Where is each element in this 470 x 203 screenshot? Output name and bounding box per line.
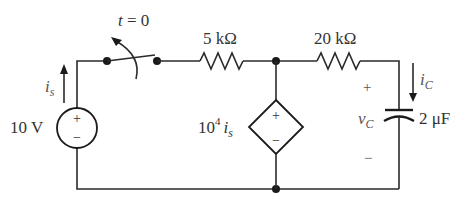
resistor-20k-label: 20 kΩ — [314, 29, 356, 48]
capacitor-minus-sign: − — [364, 150, 372, 166]
dependent-voltage-source: + − 104is — [198, 61, 303, 189]
arrow-up-icon — [60, 64, 68, 74]
voltage-source-label: 10 V — [10, 118, 44, 137]
voltage-source-10v: + − 10 V — [10, 108, 97, 148]
dependent-source-label: 104is — [198, 115, 233, 140]
voltage-source-minus: − — [73, 130, 81, 145]
dependent-source-minus: − — [272, 133, 280, 148]
capacitor-voltage-label: vC — [358, 109, 375, 131]
capacitor-plus-sign: + — [363, 79, 371, 95]
resistor-5k: 5 kΩ — [200, 29, 243, 69]
resistor-5k-label: 5 kΩ — [203, 29, 237, 48]
current-is-arrow: is — [45, 64, 68, 103]
switch: t = 0 — [103, 11, 161, 79]
arrow-down-icon — [409, 93, 417, 102]
capacitor-label: 2 μF — [419, 109, 450, 128]
capacitor: 2 μF vC + − — [358, 79, 450, 166]
resistor-20k: 20 kΩ — [314, 29, 360, 69]
switch-blade — [107, 55, 155, 61]
current-ic-label: iC — [420, 70, 434, 92]
voltage-source-plus: + — [73, 111, 81, 126]
circuit-diagram: t = 0 5 kΩ 20 kΩ 2 μF vC + − iC — [0, 0, 470, 203]
dependent-source-plus: + — [272, 108, 280, 123]
current-ic-arrow: iC — [409, 63, 434, 102]
switch-label: t = 0 — [118, 11, 149, 30]
wire-bottom — [77, 148, 399, 189]
wire-top-left — [77, 61, 107, 108]
current-is-label: is — [45, 77, 55, 99]
